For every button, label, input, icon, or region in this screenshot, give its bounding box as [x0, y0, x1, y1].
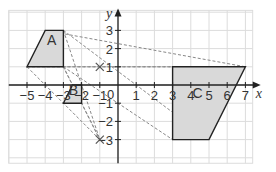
shape-label-b: B: [69, 82, 78, 98]
x-tick-label: 3: [169, 88, 176, 103]
x-tick-label: −5: [20, 88, 35, 103]
y-tick-label: 1: [106, 60, 113, 75]
x-tick-label: 5: [205, 88, 212, 103]
y-axis-label: y: [104, 6, 113, 21]
y-tick-label: −2: [98, 114, 113, 129]
shape-label-c: C: [193, 85, 203, 101]
x-axis-label: x: [255, 86, 263, 101]
x-tick-label: 1: [133, 88, 140, 103]
x-tick-label: 7: [242, 88, 249, 103]
y-tick-label: −1: [98, 96, 113, 111]
y-tick-label: 3: [106, 23, 113, 38]
y-tick-label: 2: [106, 42, 113, 57]
coordinate-diagram: x y 0 −5−4−3−2−11234567321−1−2−3 ABC: [0, 0, 276, 172]
shape-label-a: A: [47, 32, 57, 48]
x-tick-label: 2: [151, 88, 158, 103]
x-tick-label: −4: [38, 88, 53, 103]
x-tick-label: 6: [224, 88, 231, 103]
